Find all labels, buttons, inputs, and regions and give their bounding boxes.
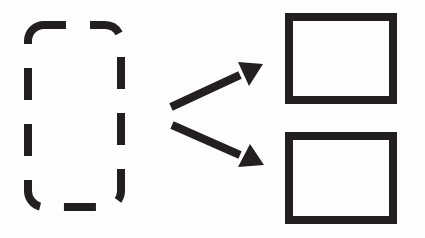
split-diagram [0,0,425,238]
background [0,0,425,238]
